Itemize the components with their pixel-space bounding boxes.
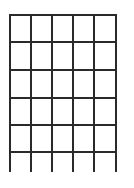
grid-vertical-line	[72, 14, 74, 172]
grid-vertical-line	[30, 14, 32, 172]
grid-horizontal-line	[9, 151, 117, 153]
grid-vertical-line	[93, 14, 95, 172]
grid-figure	[0, 0, 134, 188]
grid-horizontal-line	[9, 14, 117, 16]
grid-horizontal-line	[9, 41, 117, 43]
grid-vertical-line	[115, 14, 117, 172]
grid-horizontal-line	[9, 97, 117, 99]
grid-vertical-line	[51, 14, 53, 172]
grid-vertical-line	[9, 14, 11, 172]
grid-horizontal-line	[9, 124, 117, 126]
grid-horizontal-line	[9, 69, 117, 71]
